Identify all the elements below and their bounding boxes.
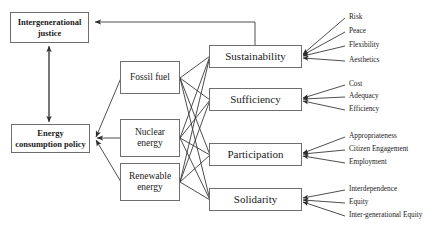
node-nuclear-energy-label: Nuclear energy bbox=[133, 127, 167, 149]
node-participation-label: Participation bbox=[225, 148, 285, 161]
edge-criteria-to-sufficiency bbox=[303, 85, 345, 110]
edge-criteria-to-sustainability bbox=[303, 18, 345, 61]
node-intergenerational-justice-label: Intergenerational justice bbox=[16, 17, 84, 37]
criterion-interdependence: Interdependence bbox=[349, 184, 397, 193]
criterion-aesthetics: Aesthetics bbox=[349, 55, 379, 64]
node-sustainability-label: Sustainability bbox=[223, 50, 288, 63]
node-nuclear-energy[interactable]: Nuclear energy bbox=[120, 119, 180, 157]
node-sufficiency[interactable]: Sufficiency bbox=[209, 88, 302, 111]
node-energy-consumption-policy[interactable]: Energy consumption policy bbox=[11, 124, 90, 153]
edge-renewable-to-criteria bbox=[180, 56, 210, 200]
node-fossil-fuel-label: Fossil fuel bbox=[128, 72, 172, 83]
node-sufficiency-label: Sufficiency bbox=[228, 93, 283, 106]
node-participation[interactable]: Participation bbox=[209, 143, 302, 166]
criterion-employment: Employment bbox=[349, 157, 387, 166]
node-fossil-fuel[interactable]: Fossil fuel bbox=[120, 61, 180, 94]
node-renewable-energy-label: Renewable energy bbox=[127, 171, 173, 193]
criterion-adequacy: Adequacy bbox=[349, 91, 379, 100]
criterion-flexibility: Flexibility bbox=[349, 40, 379, 49]
node-sustainability[interactable]: Sustainability bbox=[209, 45, 302, 68]
diagram-canvas: Intergenerational justice Energy consump… bbox=[0, 0, 435, 232]
criterion-efficiency: Efficiency bbox=[349, 104, 379, 113]
edge-criteria-to-solidarity bbox=[303, 190, 345, 216]
criterion-peace: Peace bbox=[349, 26, 366, 35]
criterion-citizen-engagement: Citizen Engagement bbox=[349, 144, 408, 153]
node-solidarity[interactable]: Solidarity bbox=[209, 188, 302, 211]
node-energy-consumption-policy-label: Energy consumption policy bbox=[13, 128, 88, 148]
criterion-intergenerational-equity: Inter-generational Equity bbox=[349, 210, 422, 219]
edge-fossil-to-policy bbox=[96, 78, 121, 137]
criterion-equity: Equity bbox=[349, 197, 368, 206]
criterion-appropriateness: Appropriateness bbox=[349, 131, 397, 140]
edge-renewable-to-policy bbox=[96, 140, 121, 182]
edge-sustainability-to-intergenerational-justice bbox=[95, 22, 255, 45]
node-renewable-energy[interactable]: Renewable energy bbox=[120, 163, 180, 201]
node-solidarity-label: Solidarity bbox=[232, 193, 279, 206]
node-intergenerational-justice[interactable]: Intergenerational justice bbox=[10, 12, 89, 43]
edge-criteria-to-participation bbox=[303, 137, 345, 163]
criterion-cost: Cost bbox=[349, 79, 362, 88]
criterion-risk: Risk bbox=[349, 12, 362, 21]
